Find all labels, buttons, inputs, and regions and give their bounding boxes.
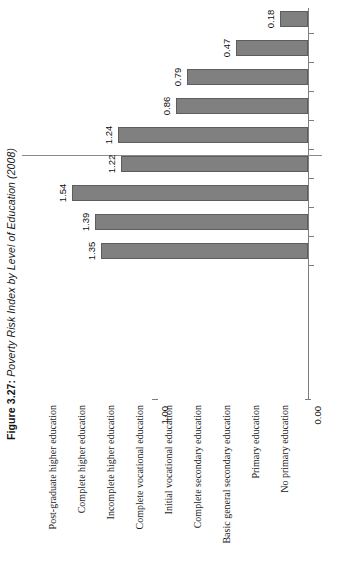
axis-tick bbox=[308, 120, 314, 121]
axis-tick bbox=[308, 236, 314, 237]
bar-rect bbox=[118, 127, 308, 143]
axis-tick bbox=[308, 207, 314, 208]
category-label-3: Incomplete higher education bbox=[105, 405, 116, 519]
category-axis-line bbox=[308, 8, 309, 400]
category-label-7: Basic general secondary education bbox=[221, 405, 232, 544]
bar-value-label: 1.39 bbox=[78, 213, 92, 231]
axis-tick bbox=[308, 178, 314, 179]
category-label-9: No primary education bbox=[279, 405, 290, 493]
bar-rect bbox=[72, 185, 308, 201]
figure-caption: Figure 3.27: Poverty Risk Index by Level… bbox=[0, 0, 22, 588]
axis-tick bbox=[308, 33, 314, 34]
axis-tick bbox=[308, 149, 314, 150]
bar-rect bbox=[176, 98, 308, 114]
value-tick-1.00 bbox=[152, 399, 158, 400]
bar-value-label: 0.79 bbox=[170, 68, 184, 86]
category-label-8: Primary education bbox=[250, 405, 261, 479]
bar-value-label: 1.24 bbox=[101, 126, 115, 144]
axis-tick bbox=[308, 265, 314, 266]
bar-rect bbox=[280, 11, 308, 27]
bar-value-label: 0.47 bbox=[219, 39, 233, 57]
bar-rect bbox=[95, 214, 308, 230]
figure-title: Poverty Risk Index by Level of Education… bbox=[5, 148, 17, 377]
category-label-1: Post-graduate higher education bbox=[47, 405, 58, 529]
figure-caption-text: Figure 3.27: Poverty Risk Index by Level… bbox=[5, 148, 17, 440]
bar-value-label: 0.86 bbox=[159, 97, 173, 115]
axis-tick bbox=[308, 62, 314, 63]
bar-value-label: 1.35 bbox=[84, 242, 98, 260]
category-label-2: Complete higher education bbox=[76, 405, 87, 513]
bar-rect bbox=[121, 156, 308, 172]
value-axis-label-0.00: 0.00 bbox=[312, 406, 323, 425]
figure-number: Figure 3.27: bbox=[5, 380, 17, 440]
category-label-6: Complete secondary education bbox=[192, 405, 203, 528]
chart-plot-area: 0.180.470.790.861.241.221.541.391.35 Pos… bbox=[22, 0, 343, 588]
bar-value-label: 1.22 bbox=[104, 155, 118, 173]
axis-tick bbox=[308, 91, 314, 92]
bar-value-label: 1.54 bbox=[55, 184, 69, 202]
bar-rect bbox=[187, 69, 308, 85]
category-label-4: Complete vocational education bbox=[134, 405, 145, 529]
value-axis-label-1.00: 1.00 bbox=[159, 406, 170, 425]
value-tick-0.00 bbox=[305, 399, 311, 400]
bar-value-label: 0.18 bbox=[263, 10, 277, 28]
bar-rect bbox=[236, 40, 308, 56]
bar-rect bbox=[101, 243, 308, 259]
